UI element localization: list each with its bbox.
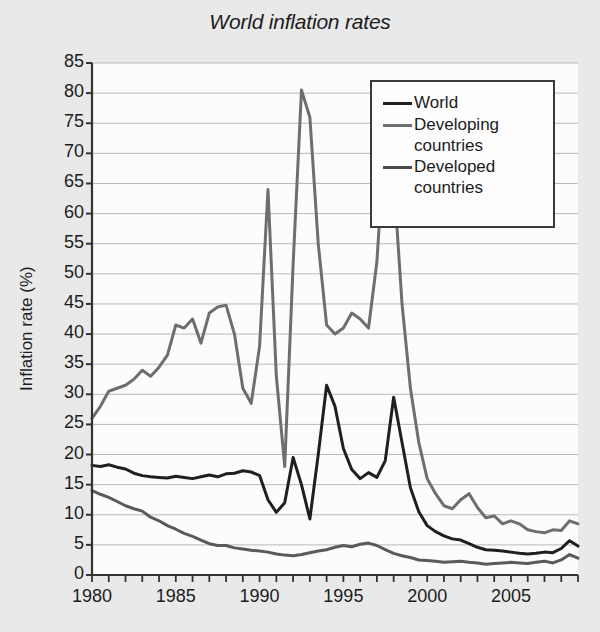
x-tick-label: 2005 — [471, 586, 551, 607]
legend-item-label: World — [414, 92, 458, 113]
x-tick-label: 2000 — [387, 586, 467, 607]
y-tick-label: 75 — [30, 111, 84, 132]
legend-item-3: Developed countries — [380, 156, 547, 198]
x-tick-label: 1990 — [220, 586, 300, 607]
legend-line-swatch-icon — [380, 92, 414, 114]
y-tick-label: 50 — [30, 262, 84, 283]
chart-legend: WorldDeveloping countriesDeveloped count… — [370, 80, 555, 228]
y-tick-label: 40 — [30, 322, 84, 343]
x-tick-label: 1980 — [52, 586, 132, 607]
y-tick-label: 35 — [30, 352, 84, 373]
y-tick-label: 20 — [30, 443, 84, 464]
legend-item-label: Developing countries — [414, 114, 499, 156]
y-tick-label: 80 — [30, 81, 84, 102]
legend-line-swatch-icon — [380, 156, 414, 178]
legend-item-1: World — [380, 92, 547, 114]
y-tick-label: 25 — [30, 412, 84, 433]
legend-item-2: Developing countries — [380, 114, 547, 156]
y-tick-label: 65 — [30, 171, 84, 192]
y-tick-label: 85 — [30, 51, 84, 72]
y-tick-label: 55 — [30, 232, 84, 253]
y-tick-label: 30 — [30, 382, 84, 403]
x-tick-label: 1985 — [136, 586, 216, 607]
y-tick-label: 70 — [30, 141, 84, 162]
y-tick-label: 5 — [30, 533, 84, 554]
y-tick-label: 60 — [30, 202, 84, 223]
y-tick-label: 45 — [30, 292, 84, 313]
legend-item-label: Developed countries — [414, 156, 495, 198]
y-tick-label: 0 — [30, 563, 84, 584]
y-tick-label: 10 — [30, 503, 84, 524]
y-tick-label: 15 — [30, 473, 84, 494]
x-tick-label: 1995 — [303, 586, 383, 607]
chart-figure: World inflation rates Inflation rate (%)… — [0, 0, 600, 632]
legend-line-swatch-icon — [380, 114, 414, 136]
